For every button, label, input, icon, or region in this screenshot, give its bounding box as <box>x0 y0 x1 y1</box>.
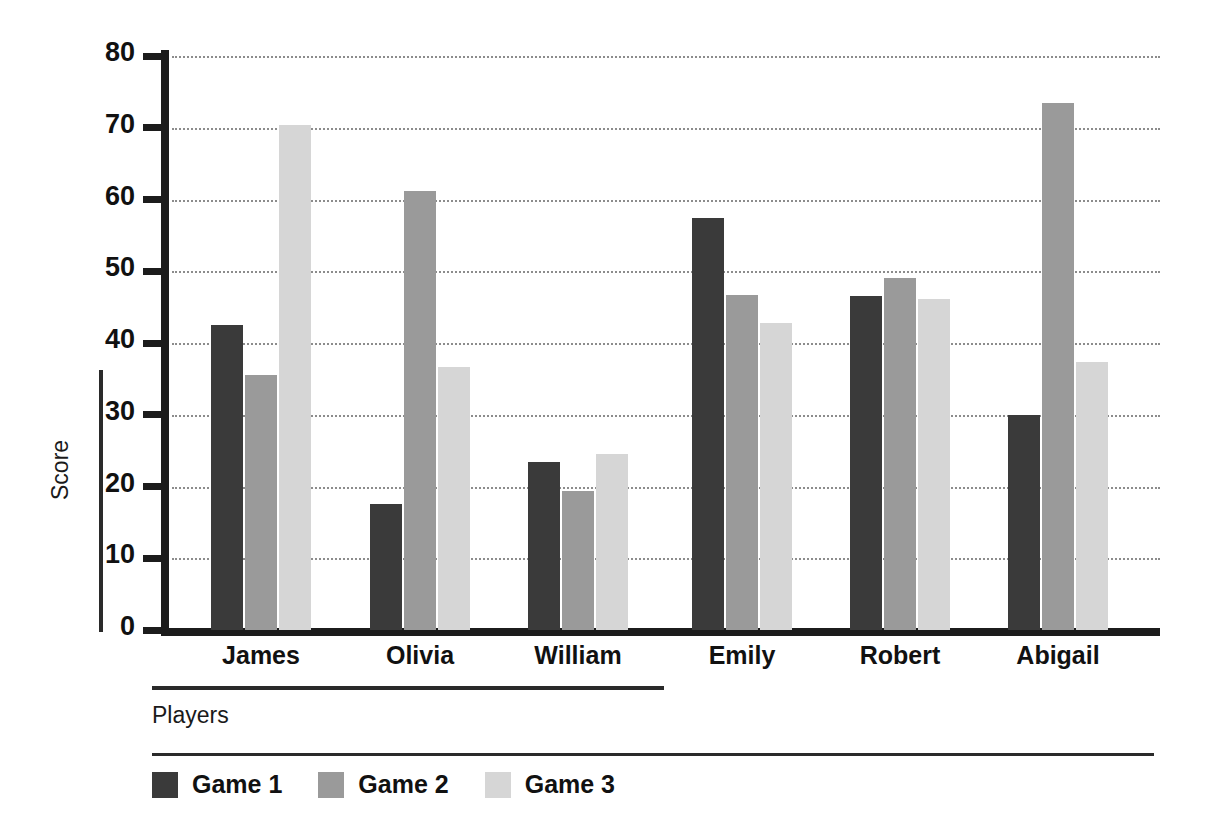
bar[interactable] <box>1042 103 1074 630</box>
bar[interactable] <box>884 278 916 630</box>
bar[interactable] <box>726 295 758 630</box>
bar[interactable] <box>562 491 594 630</box>
bar[interactable] <box>404 191 436 630</box>
bar[interactable] <box>245 375 277 630</box>
legend: Game 1Game 2Game 3 <box>152 770 651 799</box>
x-axis-category-label: Emily <box>709 641 776 670</box>
y-axis-tick <box>143 483 163 490</box>
x-axis-category-label: James <box>222 641 300 670</box>
x-axis-category-label: Olivia <box>386 641 454 670</box>
bar[interactable] <box>528 462 560 630</box>
y-axis-title: Score <box>47 440 74 500</box>
y-axis-tick-label: 40 <box>0 324 135 355</box>
y-axis-tick <box>143 53 163 60</box>
y-axis-tick-label: 10 <box>0 539 135 570</box>
bar[interactable] <box>918 299 950 630</box>
y-axis-tick <box>143 340 163 347</box>
y-axis-title-rule <box>99 370 103 632</box>
bar[interactable] <box>1076 362 1108 630</box>
legend-item[interactable]: Game 3 <box>485 770 615 799</box>
y-axis-tick <box>143 555 163 562</box>
legend-swatch-icon <box>318 772 344 798</box>
y-axis-tick-label: 60 <box>0 181 135 212</box>
bars-layer <box>168 56 1160 630</box>
y-axis-tick <box>143 268 163 275</box>
y-axis-tick-label: 80 <box>0 37 135 68</box>
legend-swatch-icon <box>485 772 511 798</box>
y-axis-tick-label: 30 <box>0 396 135 427</box>
legend-item[interactable]: Game 1 <box>152 770 282 799</box>
x-axis-category-label: Abigail <box>1016 641 1099 670</box>
y-axis-tick <box>143 411 163 418</box>
bar-chart: 01020304050607080 JamesOliviaWilliamEmil… <box>0 0 1208 838</box>
legend-swatch-icon <box>152 772 178 798</box>
legend-label: Game 3 <box>525 770 615 799</box>
x-axis-category-label: Robert <box>860 641 941 670</box>
bar[interactable] <box>692 218 724 630</box>
x-axis-category-label: William <box>534 641 621 670</box>
bar[interactable] <box>596 454 628 630</box>
y-axis-tick-label: 50 <box>0 252 135 283</box>
y-axis-tick-label: 0 <box>0 611 135 642</box>
y-axis-tick <box>143 196 163 203</box>
x-axis-title: Players <box>152 702 229 729</box>
legend-label: Game 2 <box>358 770 448 799</box>
y-axis-tick <box>143 627 163 634</box>
bar[interactable] <box>850 296 882 630</box>
bar[interactable] <box>211 325 243 630</box>
x-axis-title-rule <box>152 686 664 690</box>
legend-label: Game 1 <box>192 770 282 799</box>
bar[interactable] <box>279 125 311 630</box>
legend-item[interactable]: Game 2 <box>318 770 448 799</box>
y-axis-tick-label: 70 <box>0 109 135 140</box>
bar[interactable] <box>438 367 470 630</box>
legend-rule <box>152 753 1154 756</box>
y-axis-tick <box>143 124 163 131</box>
bar[interactable] <box>1008 415 1040 630</box>
bar[interactable] <box>760 323 792 630</box>
bar[interactable] <box>370 504 402 630</box>
